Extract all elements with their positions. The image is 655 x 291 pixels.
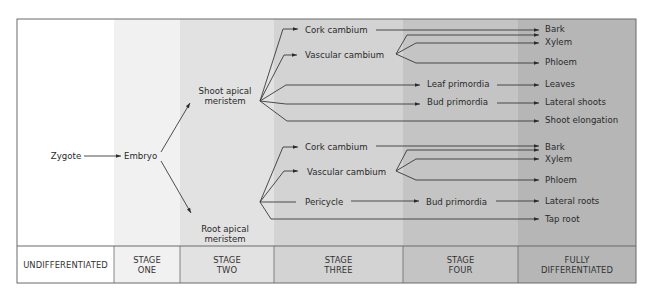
node-root-cork-cambium: Cork cambium [305,142,368,152]
node-shoot-bark: Bark [545,24,565,34]
node-shoot-xylem: Xylem [545,37,572,47]
node-root-vascular-cambium: Vascular cambium [307,167,386,177]
node-shoot-apical-meristem: Shoot apicalmeristem [198,86,251,107]
node-shoot-cork-cambium: Cork cambium [305,25,368,35]
node-lateral-shoots: Lateral shoots [545,97,606,107]
node-shoot-vascular-cambium: Vascular cambium [305,50,384,60]
node-shoot-elongation: Shoot elongation [545,115,618,125]
stage-label: STAGETWO [213,255,241,275]
node-pericycle: Pericycle [305,197,343,207]
stage-band [403,19,518,283]
node-root-bud-primordia: Bud primordia [426,197,487,207]
node-leaves: Leaves [545,79,576,89]
node-root-phloem: Phloem [545,175,577,185]
node-zygote: Zygote [51,151,81,161]
node-root-bark: Bark [545,142,565,152]
stage-label: STAGETHREE [323,255,352,275]
node-tap-root: Tap root [544,214,580,224]
node-leaf-primordia: Leaf primordia [427,79,489,89]
stage-label: UNDIFFERENTIATED [23,260,108,270]
stage-label: STAGEFOUR [447,255,475,275]
node-lateral-roots: Lateral roots [545,196,600,206]
node-embryo: Embryo [124,151,157,161]
node-root-apical-meristem: Root apicalmeristem [201,224,249,245]
node-shoot-phloem: Phloem [545,57,577,67]
node-root-xylem: Xylem [545,154,572,164]
plant-differentiation-diagram: ZygoteEmbryoShoot apicalmeristemRoot api… [0,0,655,291]
node-shoot-bud-primordia: Bud primordia [427,97,488,107]
